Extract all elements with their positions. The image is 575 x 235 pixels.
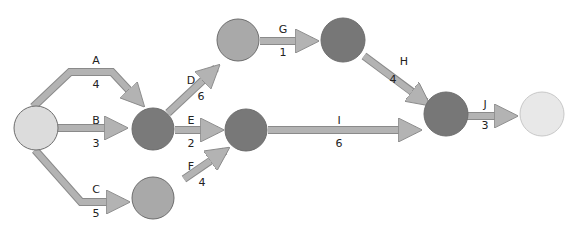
label-j-name: J [482, 98, 486, 111]
label-e-duration: 2 [188, 137, 195, 150]
label-g-name: G [279, 23, 288, 36]
label-e-name: E [188, 114, 195, 127]
label-j-duration: 3 [482, 119, 489, 132]
label-a-name: A [92, 54, 100, 67]
label-a-duration: 4 [93, 78, 100, 91]
label-d-name: D [187, 74, 195, 87]
label-i-duration: 6 [336, 137, 343, 150]
node-5 [225, 109, 267, 151]
node-3 [217, 19, 259, 61]
node-start [14, 106, 58, 150]
arrow-c [35, 150, 124, 202]
node-7 [424, 92, 468, 136]
node-4 [321, 18, 365, 62]
label-h-name: H [400, 55, 408, 68]
node-6 [132, 177, 174, 219]
label-b-duration: 3 [93, 137, 100, 150]
label-d-duration: 6 [198, 90, 205, 103]
node-2 [132, 108, 174, 150]
label-f-name: F [188, 160, 194, 173]
label-c-duration: 5 [93, 207, 100, 220]
arrow-a [33, 72, 139, 107]
label-f-duration: 4 [199, 176, 206, 189]
label-g-duration: 1 [280, 46, 287, 59]
label-i-name: I [337, 114, 340, 127]
label-b-name: B [92, 114, 100, 127]
network-diagram: A 4 B 3 C 5 D 6 E 2 F 4 G 1 H 4 I 6 J 3 [0, 0, 575, 235]
label-h-duration: 4 [390, 73, 397, 86]
label-c-name: C [92, 183, 100, 196]
node-end [520, 92, 564, 136]
